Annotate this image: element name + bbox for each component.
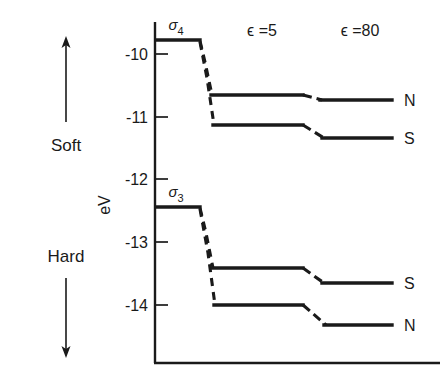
- axis-frame: [154, 22, 440, 363]
- y-tick-label-2: -12: [125, 171, 148, 188]
- lower-level-group: σ3 S N: [156, 183, 416, 334]
- soft-label: Soft: [51, 136, 82, 155]
- sigma4-S-connector: [303, 125, 324, 138]
- sigma3-N-transition: [200, 209, 215, 305]
- sigma3-label: σ3: [168, 183, 183, 204]
- hard-indicator: Hard: [48, 247, 85, 358]
- energy-level-diagram: Soft Hard -10 -11 -12 -13 -14: [0, 0, 442, 380]
- state-label-lower-top: S: [404, 275, 415, 292]
- region-label-epsilon-80: ϵ =80: [341, 22, 380, 39]
- sigma3-N-connector: [303, 305, 326, 325]
- y-tick-label-0: -10: [125, 46, 148, 63]
- soft-indicator: Soft: [51, 36, 82, 155]
- state-label-upper-bottom: S: [404, 130, 415, 147]
- y-axis-ticks: [155, 54, 168, 305]
- sigma4-label: σ4: [168, 16, 183, 37]
- y-tick-label-3: -13: [125, 234, 148, 251]
- hard-label: Hard: [48, 247, 85, 266]
- y-tick-label-4: -14: [125, 297, 148, 314]
- sigma3-S-connector: [303, 268, 324, 283]
- sigma4-S-transition: [200, 42, 214, 125]
- y-axis-tick-labels: -10 -11 -12 -13 -14: [125, 46, 148, 314]
- y-axis-title: eV: [96, 195, 113, 215]
- region-label-epsilon-5: ϵ =5: [247, 22, 277, 39]
- state-label-lower-bottom: N: [404, 317, 416, 334]
- y-tick-label-1: -11: [126, 109, 148, 126]
- state-label-upper-top: N: [404, 92, 416, 109]
- figure-canvas: Soft Hard -10 -11 -12 -13 -14: [0, 0, 442, 380]
